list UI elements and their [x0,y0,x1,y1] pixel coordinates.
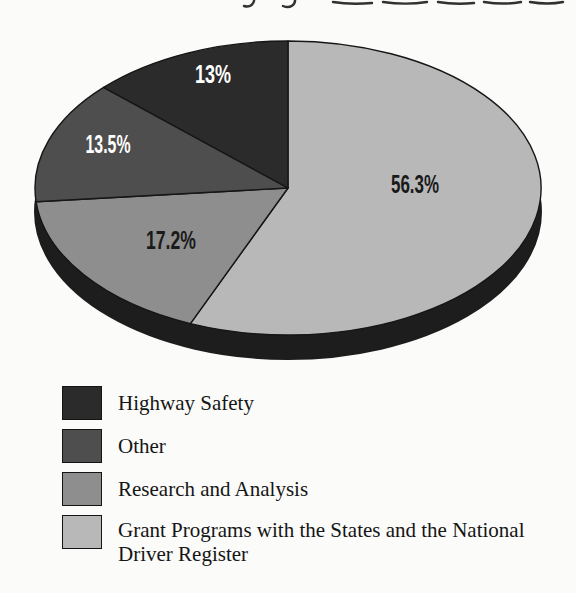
figure-page: 13%13.5%17.2%56.3% Highway Safety Other … [0,0,576,593]
legend-label: Other [118,434,166,458]
cropped-title-fragment [244,0,563,7]
legend-swatch-other [62,429,102,463]
legend-label-line: Driver Register [118,542,525,566]
legend-swatch-grant-programs [62,515,102,549]
legend-swatch-research-and-analysis [62,472,102,506]
pie-value-label: 13.5% [86,130,131,158]
legend-swatch-highway-safety [62,386,102,420]
legend-label: Highway Safety [118,391,254,415]
legend-label-line: Grant Programs with the States and the N… [118,518,525,542]
pie-value-label: 17.2% [146,226,196,254]
legend-item: Grant Programs with the States and the N… [62,515,525,566]
pie-value-label: 13% [195,60,231,88]
pie-chart: 13%13.5%17.2%56.3% [0,0,576,380]
legend: Highway Safety Other Research and Analys… [62,386,525,566]
pie-value-label: 56.3% [391,170,439,198]
legend-label: Grant Programs with the States and the N… [118,515,525,566]
legend-label: Research and Analysis [118,477,308,501]
legend-item: Research and Analysis [62,472,525,506]
legend-item: Highway Safety [62,386,525,420]
legend-item: Other [62,429,525,463]
